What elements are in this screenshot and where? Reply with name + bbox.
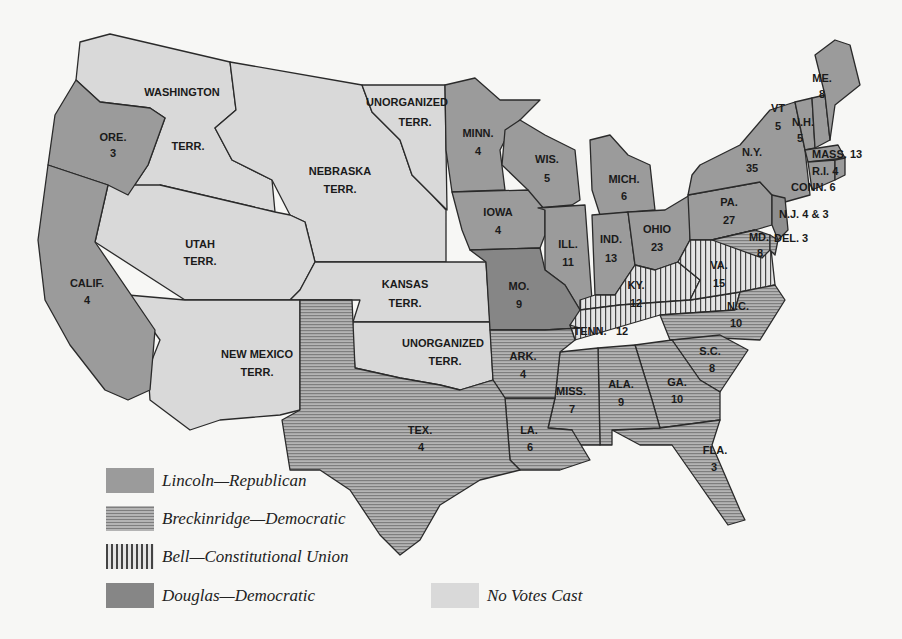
label-louisiana: LA. <box>520 424 538 436</box>
label-new-mexico-terr-suffix: TERR. <box>241 366 274 378</box>
votes-illinois: 11 <box>562 256 574 268</box>
label-kansas-terr-suffix: TERR. <box>389 297 422 309</box>
votes-oregon: 3 <box>110 147 116 159</box>
votes-indiana: 13 <box>605 252 617 264</box>
votes-wisconsin: 5 <box>544 172 550 184</box>
label-maine: ME. <box>812 72 832 84</box>
label-alabama: ALA. <box>608 378 634 390</box>
label-virginia: VA. <box>710 259 728 271</box>
votes-ohio: 23 <box>651 241 663 253</box>
votes-iowa: 4 <box>495 224 502 236</box>
label-rhode-island: R.I. 4 <box>812 165 839 177</box>
legend-item-douglas: Douglas—Democratic <box>106 583 315 608</box>
votes-california: 4 <box>84 294 91 306</box>
label-indiana: IND. <box>600 233 622 245</box>
votes-maryland: 8 <box>757 247 763 259</box>
legend-label-breckinridge: Breckinridge—Democratic <box>162 509 345 529</box>
votes-virginia: 15 <box>713 277 725 289</box>
label-new-hampshire: N.H. <box>792 116 814 128</box>
swatch-douglas <box>106 583 154 608</box>
label-massachusetts: MASS. 13 <box>812 148 862 160</box>
label-new-jersey: N.J. 4 & 3 <box>779 208 829 220</box>
votes-florida: 3 <box>711 461 717 473</box>
label-tennessee: TENN. <box>574 325 607 337</box>
legend-label-douglas: Douglas—Democratic <box>162 586 315 606</box>
votes-michigan: 6 <box>621 190 627 202</box>
label-kentucky: KY. <box>627 279 644 291</box>
label-connecticut: CONN. 6 <box>791 181 836 193</box>
label-illinois: ILL. <box>558 238 578 250</box>
label-utah-terr: UTAH <box>185 238 215 250</box>
legend-item-breckinridge: Breckinridge—Democratic <box>106 506 345 531</box>
label-nebraska-terr: NEBRASKA <box>309 165 371 177</box>
label-washington-terr-suffix: TERR. <box>172 140 205 152</box>
label-new-mexico-terr: NEW MEXICO <box>221 348 294 360</box>
label-oregon: ORE. <box>100 131 127 143</box>
label-florida: FLA. <box>703 444 727 456</box>
label-new-york: N.Y. <box>742 146 762 158</box>
label-unorganized-terr-north: UNORGANIZED <box>366 96 448 108</box>
label-mississippi: MISS. <box>556 385 586 397</box>
label-pennsylvania: PA. <box>720 196 738 208</box>
votes-vermont: 5 <box>775 120 781 132</box>
votes-louisiana: 6 <box>527 441 533 453</box>
label-utah-terr-suffix: TERR. <box>184 255 217 267</box>
votes-texas: 4 <box>418 441 425 453</box>
votes-missouri: 9 <box>516 298 522 310</box>
votes-new-hampshire: 5 <box>797 132 803 144</box>
label-delaware: DEL. 3 <box>774 232 808 244</box>
votes-georgia: 10 <box>671 393 683 405</box>
votes-kentucky: 12 <box>630 297 642 309</box>
legend-item-bell: Bell—Constitutional Union <box>106 544 349 569</box>
legend-label-lincoln: Lincoln—Republican <box>162 471 306 491</box>
swatch-breckinridge <box>106 506 154 531</box>
legend: Lincoln—Republican Breckinridge—Democrat… <box>106 468 566 618</box>
label-texas: TEX. <box>408 424 432 436</box>
region-iowa <box>452 190 545 250</box>
label-unorganized-terr-north-suffix: TERR. <box>399 116 432 128</box>
votes-pennsylvania: 27 <box>723 214 735 226</box>
label-nebraska-terr-suffix: TERR. <box>324 183 357 195</box>
votes-new-york: 35 <box>746 162 758 174</box>
swatch-bell <box>106 544 154 569</box>
legend-label-bell: Bell—Constitutional Union <box>162 547 349 567</box>
legend-label-no-votes: No Votes Cast <box>487 586 582 606</box>
votes-maine: 8 <box>819 88 825 100</box>
region-florida <box>612 420 745 525</box>
legend-item-lincoln: Lincoln—Republican <box>106 468 306 493</box>
label-south-carolina: S.C. <box>699 345 720 357</box>
region-new-mexico-terr <box>128 295 300 430</box>
label-georgia: GA. <box>667 376 687 388</box>
label-california: CALIF. <box>70 277 104 289</box>
swatch-lincoln <box>106 468 154 493</box>
votes-alabama: 9 <box>618 396 624 408</box>
votes-north-carolina: 10 <box>730 317 742 329</box>
label-iowa: IOWA <box>483 206 512 218</box>
label-unorganized-terr-south: UNORGANIZED <box>402 337 484 349</box>
label-washington-terr: WASHINGTON <box>144 86 220 98</box>
label-ohio: OHIO <box>643 223 672 235</box>
legend-item-no-votes: No Votes Cast <box>431 583 582 608</box>
label-minnesota: MINN. <box>462 127 493 139</box>
votes-tennessee: 12 <box>616 325 628 337</box>
label-maryland: MD. <box>749 231 769 243</box>
votes-minnesota: 4 <box>475 145 482 157</box>
label-north-carolina: N.C. <box>727 300 749 312</box>
label-arkansas: ARK. <box>510 350 537 362</box>
label-unorganized-terr-south-suffix: TERR. <box>429 355 462 367</box>
label-wisconsin: WIS. <box>535 153 559 165</box>
votes-mississippi: 7 <box>569 403 575 415</box>
votes-arkansas: 4 <box>520 368 527 380</box>
label-michigan: MICH. <box>608 173 639 185</box>
label-kansas-terr: KANSAS <box>382 278 428 290</box>
swatch-no-votes <box>431 583 479 608</box>
votes-south-carolina: 8 <box>709 362 715 374</box>
label-vermont: VT <box>771 102 785 114</box>
label-missouri: MO. <box>509 280 530 292</box>
